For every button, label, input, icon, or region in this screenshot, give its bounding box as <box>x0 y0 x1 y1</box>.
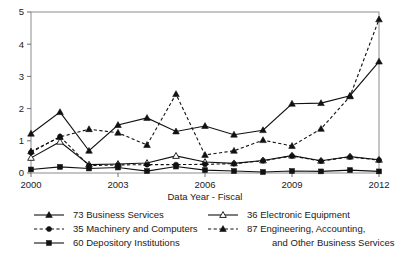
legend-label-73-business-services: 73 Business Services <box>73 209 164 220</box>
chart-legend: 73 Business Services35 Machinery and Com… <box>34 209 395 248</box>
data-point-marker <box>173 153 180 159</box>
series-line-s73 <box>31 62 379 151</box>
plot-frame <box>31 12 379 173</box>
data-point-marker <box>377 158 382 163</box>
y-tick-label: 0 <box>19 167 24 178</box>
data-point-marker <box>144 115 151 121</box>
x-tick-label: 2012 <box>368 179 389 190</box>
data-point-marker <box>28 154 35 160</box>
legend-label-87-engineering-accounting-line2: and Other Business Services <box>272 237 395 248</box>
data-point-marker <box>290 169 295 174</box>
data-point-marker <box>202 123 209 129</box>
data-point-marker <box>57 109 64 115</box>
data-point-marker <box>376 16 383 22</box>
data-point-marker <box>348 154 353 159</box>
data-point-marker <box>202 152 209 158</box>
y-tick-label: 5 <box>19 6 24 17</box>
chart-container: 01234520002003200620092012Data Year - Fi… <box>0 0 401 259</box>
x-tick-label: 2000 <box>20 179 41 190</box>
data-point-marker <box>116 162 121 167</box>
x-tick-label: 2009 <box>281 179 302 190</box>
series-line-s87 <box>31 19 379 155</box>
data-point-marker <box>47 227 52 232</box>
data-point-marker <box>174 162 179 167</box>
data-point-marker <box>173 91 180 97</box>
y-tick-label: 4 <box>19 39 24 50</box>
data-point-marker <box>58 164 63 169</box>
data-point-marker <box>261 158 266 163</box>
y-tick-label: 3 <box>19 71 24 82</box>
data-point-marker <box>145 162 150 167</box>
data-point-marker <box>86 126 93 132</box>
line-chart: 01234520002003200620092012Data Year - Fi… <box>0 0 401 259</box>
data-point-marker <box>87 163 92 168</box>
y-tick-label: 2 <box>19 103 24 114</box>
legend-label-35-machinery-and-computers: 35 Machinery and Computers <box>73 223 198 234</box>
data-point-marker <box>144 142 151 148</box>
data-point-marker <box>377 169 382 174</box>
series-s73 <box>28 58 383 153</box>
data-point-marker <box>260 137 267 143</box>
data-point-marker <box>232 161 237 166</box>
x-tick-label: 2003 <box>107 179 128 190</box>
data-point-marker <box>261 170 266 175</box>
data-point-marker <box>319 159 324 164</box>
data-point-marker <box>232 169 237 174</box>
data-point-marker <box>115 129 122 135</box>
legend-label-87-engineering-accounting: 87 Engineering, Accounting, <box>247 223 365 234</box>
data-point-marker <box>203 162 208 167</box>
legend-label-36-electronic-equipment: 36 Electronic Equipment <box>247 209 350 220</box>
data-point-marker <box>376 58 383 64</box>
legend-label-60-depository-institutions: 60 Depository Institutions <box>73 237 180 248</box>
series-s87 <box>28 16 383 157</box>
data-point-marker <box>319 169 324 174</box>
data-point-marker <box>47 241 52 246</box>
data-point-marker <box>145 169 150 174</box>
x-axis-title: Data Year - Fiscal <box>168 191 243 202</box>
data-point-marker <box>28 130 35 136</box>
y-tick-label: 1 <box>19 135 24 146</box>
data-point-marker <box>29 167 34 172</box>
x-tick-label: 2006 <box>194 179 215 190</box>
data-point-marker <box>203 168 208 173</box>
data-point-marker <box>348 168 353 173</box>
data-point-marker <box>290 153 295 158</box>
